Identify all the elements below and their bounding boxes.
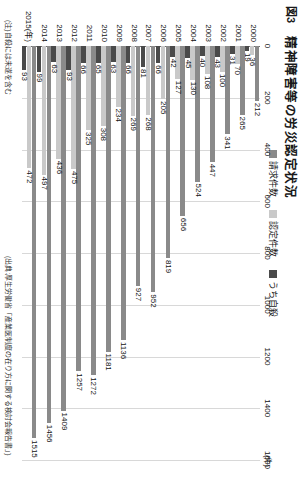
bar-row: 2009113623463 — [111, 46, 126, 460]
bar-うち自殺-2002: 43 — [215, 46, 220, 57]
bar-うち自殺-2007: 81 — [141, 46, 146, 67]
bar-認定件数-2009: 234 — [116, 46, 121, 107]
bar-認定件数-2008: 269 — [131, 46, 136, 116]
bar-請求件数-2000: 212 — [255, 46, 260, 101]
bar-value-label: 108 — [203, 76, 212, 89]
bar-value-label: 205 — [158, 101, 167, 114]
bar-うち自殺-2001: 31 — [230, 46, 235, 54]
figure-canvas: 図3 精神障害等の労災認定状況 請求件数 認定件数 うち自殺 (件) 02004… — [0, 0, 304, 493]
bar-認定件数-2013: 436 — [56, 46, 61, 159]
bar-value-label: 1181 — [104, 354, 113, 371]
legend-swatch-approvals — [270, 210, 278, 218]
y-tick-2006: 2006 — [159, 24, 168, 42]
bar-value-label: 269 — [129, 118, 138, 131]
bar-row: 2010118130865 — [96, 46, 111, 460]
y-tick-2004: 2004 — [189, 24, 198, 42]
bar-value-label: 212 — [253, 103, 262, 116]
x-tick-600: 600 — [263, 195, 272, 208]
bar-うち自殺-2012: 93 — [66, 46, 71, 70]
bar-value-label: 234 — [114, 109, 123, 122]
x-tick-200: 200 — [263, 91, 272, 104]
bar-請求件数-2008: 927 — [136, 46, 141, 286]
bar-row: 2011127232566 — [82, 46, 97, 460]
bar-うち自殺-2003: 40 — [200, 46, 205, 56]
bar-請求件数-2013: 1409 — [61, 46, 66, 411]
footnote-suicide: (注)自殺には未遂を含む — [4, 20, 14, 95]
bar-row: 2013140943663 — [52, 46, 67, 460]
y-tick-2009: 2009 — [114, 24, 123, 42]
bar-value-label: 952 — [148, 294, 157, 307]
bar-rows: 2000212361920012657031200234110043200344… — [22, 46, 260, 460]
bar-うち自殺-2015: 93 — [22, 46, 27, 70]
y-tick-2003: 2003 — [203, 24, 212, 42]
bar-value-label: 656 — [178, 218, 187, 231]
bar-row: 200892726966 — [126, 46, 141, 460]
bar-認定件数-2015: 472 — [27, 46, 32, 168]
bar-請求件数-2010: 1181 — [106, 46, 111, 352]
bar-請求件数-2003: 447 — [210, 46, 215, 162]
bar-うち自殺-2008: 66 — [126, 46, 131, 63]
y-tick-2001: 2001 — [233, 24, 242, 42]
bar-請求件数-2007: 952 — [151, 46, 156, 292]
bar-value-label: 1515 — [29, 440, 38, 458]
bar-うち自殺-2009: 63 — [111, 46, 116, 62]
y-tick-2012: 2012 — [70, 24, 79, 42]
x-tick-400: 400 — [263, 143, 272, 156]
bar-うち自殺-2006: 66 — [156, 46, 161, 63]
bar-うち自殺-2014: 99 — [37, 46, 42, 72]
y-tick-2015: 2015(年) — [24, 11, 35, 42]
bar-請求件数-2006: 819 — [166, 46, 171, 258]
bar-row: 20002123619 — [245, 46, 260, 460]
bar-value-label: 1257 — [74, 373, 83, 391]
bar-value-label: 436 — [54, 161, 63, 174]
bar-value-label: 341 — [223, 136, 232, 149]
plot-area: 02004006008001000120014001600 2000212361… — [22, 46, 260, 460]
x-tick-0: 0 — [263, 44, 272, 48]
bar-認定件数-2011: 325 — [86, 46, 91, 130]
y-tick-2007: 2007 — [144, 24, 153, 42]
bar-value-label: 325 — [84, 132, 93, 145]
bar-value-label: 70 — [233, 66, 242, 75]
x-tick-1000: 1000 — [263, 296, 272, 314]
bar-請求件数-2011: 1272 — [91, 46, 96, 375]
bar-うち自殺-2013: 63 — [51, 46, 56, 62]
bar-value-label: 472 — [24, 170, 33, 183]
x-tick-1200: 1200 — [263, 348, 272, 366]
y-tick-2008: 2008 — [129, 24, 138, 42]
legend-item-requests: 請求件数 — [267, 150, 280, 197]
bar-value-label: 497 — [39, 177, 48, 190]
bar-row: 2015(年)151547293 — [22, 46, 37, 460]
bar-value-label: 1136 — [119, 342, 128, 359]
y-tick-2013: 2013 — [55, 24, 64, 42]
figure-number: 図3 — [284, 6, 300, 23]
bar-row: 200681920566 — [156, 46, 171, 460]
bar-請求件数-2001: 265 — [240, 46, 245, 115]
bar-value-label: 130 — [188, 82, 197, 95]
bar-value-label: 268 — [143, 117, 152, 130]
bar-row: 200344710840 — [201, 46, 216, 460]
bar-認定件数-2007: 268 — [146, 46, 151, 115]
bar-請求件数-2015: 1515 — [32, 46, 37, 438]
y-tick-2010: 2010 — [99, 24, 108, 42]
x-tick-800: 800 — [263, 246, 272, 259]
gridline-1600 — [22, 460, 260, 461]
bar-value-label: 127 — [173, 81, 182, 94]
bar-うち自殺-2005: 42 — [170, 46, 175, 57]
bar-row: 2012125747593 — [67, 46, 82, 460]
bar-value-label: 819 — [163, 260, 172, 273]
bar-value-label: 447 — [208, 164, 217, 177]
bar-row: 20012657031 — [230, 46, 245, 460]
bar-value-label: 1272 — [89, 377, 98, 395]
bar-認定件数-2012: 475 — [71, 46, 76, 169]
bar-うち自殺-2004: 45 — [185, 46, 190, 58]
bar-row: 2014145649799 — [37, 46, 52, 460]
y-tick-2014: 2014 — [40, 24, 49, 42]
bar-value-label: 475 — [69, 171, 78, 184]
bar-row: 200234110043 — [215, 46, 230, 460]
y-tick-2000: 2000 — [248, 24, 257, 42]
bar-うち自殺-2010: 65 — [96, 46, 101, 63]
bar-請求件数-2009: 1136 — [121, 46, 126, 340]
bar-value-label: 927 — [134, 288, 143, 301]
bar-row: 200452413045 — [186, 46, 201, 460]
y-tick-2005: 2005 — [174, 24, 183, 42]
